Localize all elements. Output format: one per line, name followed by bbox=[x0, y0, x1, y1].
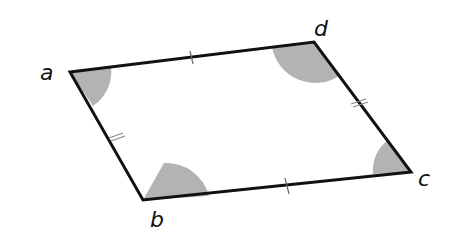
vertex-label-b: b bbox=[150, 207, 164, 232]
parallelogram-diagram: a d c b bbox=[0, 0, 460, 241]
vertex-label-c: c bbox=[418, 166, 430, 191]
vertex-label-d: d bbox=[314, 16, 329, 41]
parallelogram-outline bbox=[70, 42, 411, 200]
vertex-label-a: a bbox=[40, 60, 53, 85]
angle-a-sector bbox=[70, 67, 111, 106]
